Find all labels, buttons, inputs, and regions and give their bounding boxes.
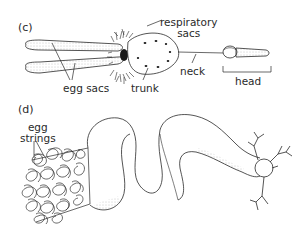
trunk-junction [120,49,128,61]
neck-leader [192,54,196,63]
head [236,48,269,57]
egg-sac-upper [26,40,123,51]
panel-d-organism [22,115,292,224]
label-egg-sacs: egg sacs [63,83,109,94]
label-head: head [235,76,261,87]
panel-label-c: (c) [18,21,33,34]
trunk [128,33,179,74]
head-bracket [223,66,271,72]
body-outline-outer [87,115,260,194]
neck [178,52,224,53]
body-stipple [196,148,244,172]
egg-strings-tangle [22,148,90,224]
label-trunk: trunk [131,83,159,94]
panel-label-d: (d) [18,103,34,116]
label-egg-strings: egg strings [20,122,56,144]
label-respiratory-sacs: respiratory sacs [160,17,217,39]
label-neck: neck [180,66,205,77]
diagram-canvas [0,0,298,234]
